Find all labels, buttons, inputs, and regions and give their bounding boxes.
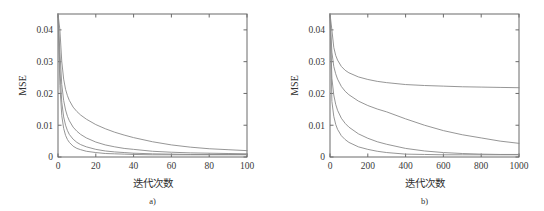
xtick-label-a-0: 0 (56, 161, 61, 171)
chart-panel-a: 02040608010000.010.020.030.04MSE迭代次数a) (0, 0, 272, 211)
chart-svg-a: 02040608010000.010.020.030.04MSE迭代次数a) (0, 0, 272, 211)
xtick-label-a-3: 60 (167, 161, 177, 171)
curve-b-2 (330, 14, 519, 143)
panel-caption-a: a) (149, 196, 156, 206)
ytick-label-a-3: 0.03 (36, 57, 53, 67)
ytick-label-a-1: 0.01 (36, 121, 53, 131)
curve-b-3 (330, 14, 519, 154)
xtick-label-b-2: 400 (398, 161, 413, 171)
curve-a-2 (58, 14, 247, 154)
x-axis-label-b: 迭代次数 (405, 177, 446, 189)
chart-svg-b: 0200400600800100000.010.020.030.04MSE迭代次… (272, 0, 544, 211)
ytick-label-a-2: 0.02 (36, 89, 53, 99)
panel-caption-b: b) (421, 196, 428, 206)
ytick-label-b-4: 0.04 (308, 25, 325, 35)
curve-a-1 (58, 14, 247, 151)
ytick-label-b-2: 0.02 (308, 89, 325, 99)
xtick-label-b-1: 200 (361, 161, 376, 171)
y-axis-label-b: MSE (289, 75, 300, 96)
curve-a-3 (58, 14, 247, 154)
xtick-label-b-4: 800 (474, 161, 489, 171)
xtick-label-a-5: 100 (240, 161, 255, 171)
y-axis-label-a: MSE (17, 75, 28, 96)
ytick-label-b-0: 0 (320, 152, 325, 162)
x-axis-label-a: 迭代次数 (133, 177, 174, 189)
curve-b-1 (330, 14, 519, 88)
ytick-label-b-3: 0.03 (308, 57, 325, 67)
xtick-label-a-2: 40 (129, 161, 139, 171)
xtick-label-a-4: 80 (204, 161, 214, 171)
xtick-label-b-5: 1000 (510, 161, 529, 171)
ytick-label-a-0: 0 (48, 152, 53, 162)
xtick-label-b-3: 600 (436, 161, 451, 171)
plot-frame-a (58, 14, 247, 157)
ytick-label-a-4: 0.04 (36, 25, 53, 35)
figure-container: 02040608010000.010.020.030.04MSE迭代次数a) 0… (0, 0, 544, 211)
ytick-label-b-1: 0.01 (308, 121, 325, 131)
xtick-label-b-0: 0 (328, 161, 333, 171)
chart-panel-b: 0200400600800100000.010.020.030.04MSE迭代次… (272, 0, 544, 211)
xtick-label-a-1: 20 (91, 161, 101, 171)
curve-a-4 (58, 14, 247, 155)
